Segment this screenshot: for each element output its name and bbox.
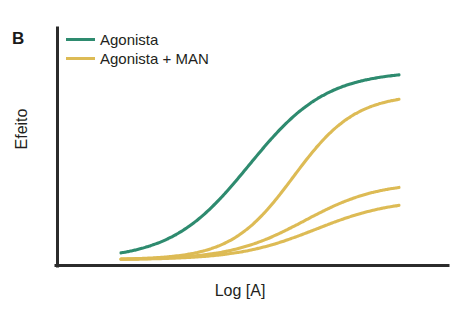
curve-series-1 [121, 99, 399, 259]
curve-series-0 [121, 75, 399, 253]
curve-series-3 [121, 205, 399, 259]
figure-panel-b: B Efeito Log [A] Agonista Agonista + MAN [0, 0, 467, 310]
legend-item-agonista-man: Agonista + MAN [66, 49, 209, 68]
legend-swatch-agonista-man [66, 57, 95, 60]
legend-label-agonista-man: Agonista + MAN [100, 51, 209, 66]
legend: Agonista Agonista + MAN [66, 30, 209, 68]
legend-item-agonista: Agonista [66, 30, 209, 49]
legend-label-agonista: Agonista [100, 32, 158, 47]
legend-swatch-agonista [66, 38, 95, 41]
curve-group [121, 75, 399, 259]
